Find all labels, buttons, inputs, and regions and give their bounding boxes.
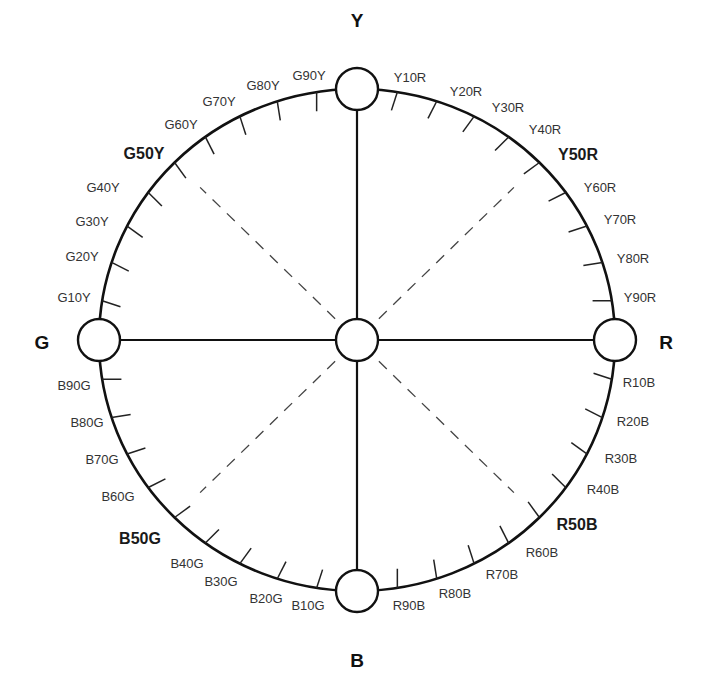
tick-g30y (127, 226, 143, 237)
tick-g70y (240, 116, 246, 134)
label-g60y: G60Y (164, 117, 198, 132)
tick-y10r (391, 92, 397, 110)
label-y10r: Y10R (394, 70, 427, 85)
tick-r30b (571, 443, 587, 454)
label-b70g: B70G (85, 452, 118, 467)
tick-r40b (552, 474, 566, 488)
node-g (78, 319, 120, 361)
label-y20r: Y20R (450, 84, 483, 99)
label-y40r: Y40R (529, 122, 562, 137)
tick-g40y (148, 192, 162, 206)
label-r40b: R40B (587, 482, 620, 497)
label-y30r: Y30R (492, 100, 525, 115)
tick-y70r (569, 226, 587, 232)
label-g80y: G80Y (246, 78, 280, 93)
diagonal-dash-line (379, 361, 514, 492)
label-y70r: Y70R (604, 212, 637, 227)
primary-label-b: B (350, 650, 364, 671)
tick-b70g (127, 448, 145, 454)
diagonal-dash-line (200, 361, 335, 492)
tick-b20g (277, 562, 286, 579)
tick-g10y (102, 301, 120, 307)
label-r30b: R30B (605, 451, 638, 466)
tick-r20b (585, 409, 602, 418)
tick-r70b (468, 545, 474, 563)
tick-g80y (277, 101, 280, 120)
label-b20g: B20G (249, 591, 282, 606)
tick-r80b (434, 560, 437, 579)
node-r (594, 319, 636, 361)
tick-y40r (495, 137, 509, 151)
label-g10y: G10Y (57, 290, 91, 305)
label-g30y: G30Y (75, 214, 109, 229)
node-y (336, 68, 378, 110)
label-b30g: B30G (204, 574, 237, 589)
label-b60g: B60G (101, 489, 134, 504)
tick-b80g (112, 415, 131, 418)
label-r90b: R90B (393, 598, 426, 613)
label-r10b: R10B (623, 375, 656, 390)
label-r60b: R60B (526, 545, 559, 560)
node-b (336, 570, 378, 612)
label-b80g: B80G (70, 415, 103, 430)
tick-r60b (500, 526, 509, 543)
label-b10g: B10G (291, 598, 324, 613)
primary-label-r: R (659, 332, 673, 353)
tick-y50r (524, 163, 540, 174)
label-b40g: B40G (170, 556, 203, 571)
diagonal-dash-line (379, 187, 514, 318)
label-g90y: G90Y (292, 68, 326, 83)
label-y60r: Y60R (584, 180, 617, 195)
label-b50g: B50G (119, 530, 161, 547)
tick-y20r (428, 101, 437, 118)
primary-label-y: Y (351, 10, 364, 31)
label-g50y: G50Y (124, 145, 165, 162)
tick-g50y (175, 163, 186, 179)
primary-label-g: G (35, 332, 50, 353)
tick-b30g (240, 548, 251, 564)
label-r20b: R20B (617, 414, 650, 429)
label-y90r: Y90R (624, 290, 657, 305)
label-r50b: R50B (557, 516, 598, 533)
tick-y60r (549, 192, 566, 201)
tick-b10g (317, 570, 323, 588)
tick-b50g (175, 506, 191, 517)
tick-g20y (112, 262, 129, 271)
diagonal-dash-line (200, 187, 335, 318)
label-g20y: G20Y (65, 249, 99, 264)
tick-b40g (205, 529, 219, 543)
center-node (336, 319, 378, 361)
tick-r50b (528, 502, 539, 518)
tick-b60g (148, 479, 165, 488)
label-y50r: Y50R (558, 146, 598, 163)
label-y80r: Y80R (617, 251, 650, 266)
label-r80b: R80B (439, 586, 472, 601)
label-r70b: R70B (486, 567, 519, 582)
label-b90g: B90G (57, 378, 90, 393)
tick-r10b (594, 373, 612, 379)
label-g40y: G40Y (86, 180, 120, 195)
tick-g60y (205, 137, 214, 154)
tick-y30r (463, 116, 474, 132)
hue-circle-diagram: Y10RY20RY30RY40RY50RY60RY70RY80RY90RR10B… (0, 0, 706, 676)
label-g70y: G70Y (202, 94, 236, 109)
tick-y80r (583, 262, 602, 265)
